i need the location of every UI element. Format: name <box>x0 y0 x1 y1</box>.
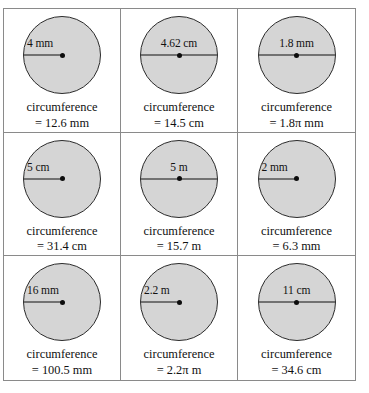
dimension-label-9: 11 cm <box>283 285 311 297</box>
radius-segment-6 <box>259 178 297 179</box>
caption-value-9: = 34.6 cm <box>261 363 332 379</box>
caption-value-8: = 2.2π m <box>144 363 215 379</box>
dimension-label-7: 16 mm <box>27 285 59 297</box>
caption-7: circumference = 100.5 mm <box>27 347 98 378</box>
circle-figure-3: 1.8 mm <box>258 16 336 94</box>
caption-word-2: circumference <box>144 100 215 114</box>
caption-4: circumference = 31.4 cm <box>27 224 98 255</box>
grid-cell-1: 4 mm circumference = 12.6 mm <box>4 9 121 133</box>
caption-word-4: circumference <box>27 224 98 238</box>
circle-figure-9: 11 cm <box>258 263 336 341</box>
caption-value-5: = 15.7 m <box>144 239 215 255</box>
dimension-label-1: 4 mm <box>27 38 53 50</box>
radius-segment-7 <box>24 302 62 303</box>
circle-figure-5: 5 m <box>140 140 218 218</box>
dimension-label-8: 2.2 m <box>144 285 170 297</box>
centre-point-9 <box>294 300 299 305</box>
grid-cell-8: 2.2 m circumference = 2.2π m <box>121 256 238 380</box>
centre-point-7 <box>60 300 65 305</box>
circle-figure-1: 4 mm <box>23 16 101 94</box>
dimension-label-3: 1.8 mm <box>279 38 314 50</box>
grid-cell-9: 11 cm circumference = 34.6 cm <box>238 256 355 380</box>
caption-value-4: = 31.4 cm <box>27 239 98 255</box>
centre-point-5 <box>177 176 182 181</box>
grid-cell-3: 1.8 mm circumference = 1.8π mm <box>238 9 355 133</box>
dimension-label-4: 5 cm <box>27 161 49 173</box>
radius-segment-8 <box>141 302 179 303</box>
grid-cell-7: 16 mm circumference = 100.5 mm <box>4 256 121 380</box>
caption-word-9: circumference <box>261 347 332 361</box>
grid-cell-6: 2 mm circumference = 6.3 mm <box>238 133 355 257</box>
caption-8: circumference = 2.2π m <box>144 347 215 378</box>
circle-figure-7: 16 mm <box>23 263 101 341</box>
centre-point-2 <box>177 53 182 58</box>
grid-cell-2: 4.62 cm circumference = 14.5 cm <box>121 9 238 133</box>
caption-word-1: circumference <box>27 100 98 114</box>
caption-value-1: = 12.6 mm <box>27 116 98 132</box>
caption-value-2: = 14.5 cm <box>144 116 215 132</box>
radius-segment-4 <box>24 178 62 179</box>
circle-figure-6: 2 mm <box>258 140 336 218</box>
caption-word-6: circumference <box>261 224 332 238</box>
dimension-label-2: 4.62 cm <box>161 38 197 50</box>
grid-cell-4: 5 cm circumference = 31.4 cm <box>4 133 121 257</box>
caption-value-7: = 100.5 mm <box>27 363 98 379</box>
circle-figure-4: 5 cm <box>23 140 101 218</box>
caption-2: circumference = 14.5 cm <box>144 100 215 131</box>
caption-6: circumference = 6.3 mm <box>261 224 332 255</box>
worksheet-sheet: 4 mm circumference = 12.6 mm 4.62 cm cir… <box>0 0 369 393</box>
centre-point-1 <box>60 53 65 58</box>
caption-word-7: circumference <box>27 347 98 361</box>
centre-point-4 <box>60 176 65 181</box>
caption-value-3: = 1.8π mm <box>261 116 332 132</box>
dimension-label-5: 5 m <box>170 161 187 173</box>
caption-word-8: circumference <box>144 347 215 361</box>
grid-cell-5: 5 m circumference = 15.7 m <box>121 133 238 257</box>
caption-value-6: = 6.3 mm <box>261 239 332 255</box>
caption-1: circumference = 12.6 mm <box>27 100 98 131</box>
centre-point-3 <box>294 53 299 58</box>
circle-figure-8: 2.2 m <box>140 263 218 341</box>
caption-3: circumference = 1.8π mm <box>261 100 332 131</box>
circle-figure-2: 4.62 cm <box>140 16 218 94</box>
caption-word-5: circumference <box>144 224 215 238</box>
centre-point-8 <box>177 300 182 305</box>
circle-grid-table: 4 mm circumference = 12.6 mm 4.62 cm cir… <box>3 8 356 381</box>
caption-word-3: circumference <box>261 100 332 114</box>
dimension-label-6: 2 mm <box>262 161 288 173</box>
radius-segment-1 <box>24 55 62 56</box>
caption-9: circumference = 34.6 cm <box>261 347 332 378</box>
caption-5: circumference = 15.7 m <box>144 224 215 255</box>
